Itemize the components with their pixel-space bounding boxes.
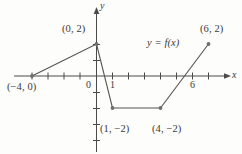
origin-label: 0 — [86, 80, 91, 90]
curve-equation-label: y = f(x) — [147, 38, 179, 49]
point-label-right-endpoint: (6, 2) — [200, 24, 223, 35]
point-label-left-endpoint: (−4, 0) — [7, 82, 36, 93]
y-axis — [94, 7, 100, 152]
point-label-first-min: (1, −2) — [100, 124, 129, 135]
x-axis — [14, 73, 231, 79]
point-label-second-min: (4, −2) — [152, 124, 181, 135]
x-tick-label-1: 1 — [110, 80, 115, 90]
x-tick-label-6: 6 — [190, 80, 195, 90]
point-label-y-intercept: (0, 2) — [62, 24, 85, 35]
x-axis-label: x — [232, 70, 237, 80]
y-axis-label: y — [100, 1, 105, 11]
graph-figure: x y 0 1 6 y = f(x) (−4, 0) (0, 2) (1, −2… — [0, 0, 242, 154]
